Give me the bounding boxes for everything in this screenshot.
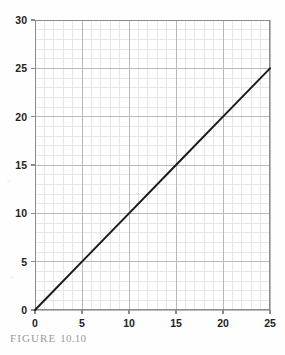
- y-tick-label-10: 10: [0, 208, 27, 219]
- y-tick-label-15: 15: [0, 160, 27, 171]
- figure-caption-prefix: FIGURE: [10, 332, 56, 344]
- x-tick-label-5: 5: [79, 318, 85, 329]
- plot-area: [35, 20, 270, 310]
- x-tick-label-10: 10: [123, 318, 135, 329]
- y-tick-label-30: 30: [0, 15, 27, 26]
- x-tick-label-25: 25: [264, 318, 276, 329]
- figure-caption: FIGURE10.10: [10, 332, 86, 344]
- figure-caption-number: 10.10: [60, 332, 86, 344]
- scan-artifact-speck: [7, 180, 11, 183]
- y-tick-label-20: 20: [0, 111, 27, 122]
- y-tick-label-0: 0: [0, 305, 27, 316]
- y-tick-label-25: 25: [0, 63, 27, 74]
- y-tick-label-5: 5: [0, 256, 27, 267]
- x-tick-label-20: 20: [217, 318, 229, 329]
- data-series-line: [35, 20, 270, 310]
- x-tick-label-0: 0: [32, 318, 38, 329]
- x-tick-label-15: 15: [170, 318, 182, 329]
- figure-container: 051015202530 0510152025 FIGURE10.10: [0, 0, 285, 355]
- scan-artifact-speck-2: [10, 276, 14, 279]
